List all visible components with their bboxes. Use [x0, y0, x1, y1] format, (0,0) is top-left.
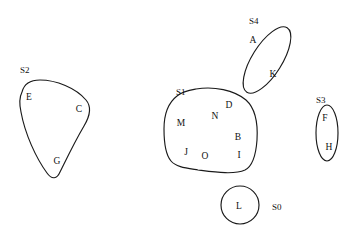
member-label-i: I: [237, 150, 240, 160]
member-label-f: F: [322, 113, 327, 123]
member-label-b: B: [235, 132, 241, 142]
region-label-s2: S2: [20, 65, 30, 75]
region-label-s0: S0: [272, 202, 282, 212]
member-label-k: K: [270, 69, 277, 79]
region-outline-s1: [164, 88, 257, 173]
set-diagram: S2ECGS1MNDBJOIS4AKS3FHS0L: [0, 0, 352, 237]
region-s1[interactable]: [164, 88, 257, 173]
member-label-n: N: [212, 111, 219, 121]
region-outline-s4: [234, 20, 300, 100]
member-label-a: A: [250, 35, 257, 45]
member-label-g: G: [54, 156, 61, 166]
member-label-j: J: [184, 147, 188, 157]
region-s4[interactable]: [234, 20, 300, 100]
member-label-c: C: [76, 104, 82, 114]
member-label-o: O: [202, 151, 209, 161]
member-label-m: M: [177, 118, 186, 128]
diagram-canvas: S2ECGS1MNDBJOIS4AKS3FHS0L: [0, 0, 352, 237]
member-label-e: E: [26, 92, 32, 102]
region-label-s3: S3: [316, 95, 326, 105]
region-label-s4: S4: [249, 16, 259, 26]
region-label-s1: S1: [176, 87, 186, 97]
member-label-l: L: [236, 201, 242, 211]
member-label-h: H: [326, 142, 333, 152]
member-label-d: D: [226, 100, 233, 110]
